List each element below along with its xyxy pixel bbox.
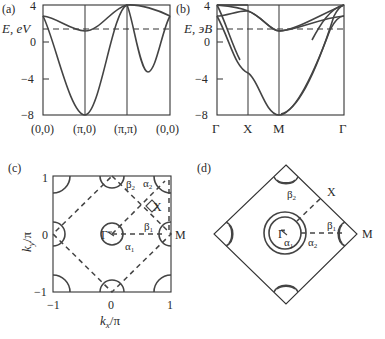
panel-c-alpha2-label: α2 (143, 177, 153, 191)
panel-a-xtick-00: (0,0) (31, 122, 54, 136)
panel-b-ytick-0: 0 (204, 35, 210, 49)
panel-c-xtick-0: 0 (108, 298, 114, 312)
panel-c-ytick-m1: −1 (34, 285, 47, 299)
panel-a-upper-band (43, 5, 170, 31)
panel-d-pocket-right-b (339, 225, 342, 243)
panel-a: (a) E, eV 4 0 −4 −8 (0,0) (π,0) (π,π) (0… (1, 0, 179, 136)
panel-c-xlabel: kx/π (100, 313, 120, 330)
panel-d-label: (d) (197, 161, 211, 175)
panel-c-label: (c) (8, 161, 21, 175)
panel-d-gamma-x-path (297, 197, 322, 221)
panel-a-xtick-00-end: (0,0) (156, 122, 179, 136)
figure: (a) E, eV 4 0 −4 −8 (0,0) (π,0) (π,π) (0… (0, 0, 385, 339)
panel-b-label: (b) (176, 2, 190, 16)
panel-c-ytick-0: 0 (42, 228, 48, 242)
panel-d-pocket-left-b (229, 225, 232, 243)
panel-b-xtick-gamma-end: Γ (339, 121, 347, 136)
panel-d-alpha1-label: α1 (284, 236, 294, 250)
panel-d-beta1-label: β1 (327, 219, 337, 233)
panel-b-ytick-4: 4 (204, 0, 210, 13)
panel-b-ytick-m8: −8 (195, 108, 208, 122)
panel-a-ytick-m4: −4 (21, 72, 34, 86)
panel-a-xtick-pipi: (π,π) (114, 122, 137, 136)
panel-a-lower-band (43, 5, 170, 115)
panel-d-m-label: M (362, 227, 373, 241)
panel-c-alpha1-label: α1 (125, 240, 135, 254)
panel-b-ylabel: E, эВ (183, 21, 212, 36)
panel-d-alpha2-label: α2 (308, 236, 318, 250)
panel-d-x-label: X (327, 185, 336, 199)
panel-d-pocket-top-b (277, 180, 295, 183)
panel-b-xtick-m: M (273, 121, 285, 136)
panel-a-label: (a) (2, 2, 15, 16)
panel-b: (b) E, эВ 4 0 −4 −8 Γ X M Γ (176, 0, 347, 136)
panel-c-pocket-bottom (100, 280, 124, 292)
panel-c-ylabel: ky/π (19, 232, 36, 252)
panel-c-xtick-1: 1 (167, 298, 173, 312)
panel-c: (c) 1 0 −1 −1 0 1 kx/π ky/π (8, 161, 186, 330)
panel-c-corner-br (154, 275, 171, 292)
panel-d-beta2-label: β2 (287, 188, 297, 202)
panel-c-m-label: M (175, 228, 186, 242)
panel-a-xtick-pi0: (π,0) (73, 122, 96, 136)
panel-d-pocket-bottom-b (277, 286, 295, 289)
panel-c-pocket-top (100, 176, 124, 188)
panel-b-ytick-m4: −4 (195, 72, 208, 86)
panel-c-x-label: X (153, 200, 162, 214)
panel-a-ytick-m8: −8 (21, 108, 34, 122)
panel-c-gamma-label: Γ (101, 228, 108, 242)
panel-a-ylabel: E, eV (1, 21, 32, 36)
panel-c-beta1-label: β1 (144, 220, 154, 234)
panel-c-ytick-1: 1 (42, 171, 48, 185)
panel-c-beta2-label: β2 (126, 178, 136, 192)
panel-c-corner-bl (53, 275, 70, 292)
panel-d: (d) Γ X M α1 α2 β1 β2 (197, 161, 373, 304)
panel-c-xtick-m1: −1 (47, 298, 60, 312)
panel-a-ytick-0: 0 (30, 35, 36, 49)
panel-b-xtick-x: X (243, 121, 253, 136)
panel-c-pocket-left (53, 222, 65, 246)
panel-c-corner-tl (53, 176, 70, 193)
panel-b-xtick-gamma: Γ (212, 121, 220, 136)
panel-a-ytick-4: 4 (30, 0, 36, 13)
